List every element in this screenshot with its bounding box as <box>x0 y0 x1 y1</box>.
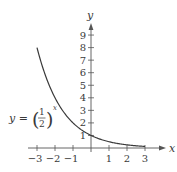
function-label: y = ( 1 2 ) x <box>8 104 57 130</box>
y-axis-label: y <box>86 9 94 22</box>
fraction-denominator: 2 <box>39 119 45 129</box>
x-tick-label: 3 <box>142 153 148 164</box>
x-axis-arrow-icon <box>159 146 166 151</box>
svg-text:y =: y = <box>8 112 28 125</box>
y-tick-label: 8 <box>80 42 86 53</box>
function-label-equals: = <box>15 112 28 125</box>
y-tick-label: 5 <box>80 80 86 91</box>
y-tick-label: 9 <box>80 30 86 41</box>
y-tick-label: 7 <box>80 55 86 66</box>
y-tick-label: 2 <box>80 117 86 128</box>
x-tick-label: 1 <box>106 153 112 164</box>
exponential-decay-graph: x y −3−2−1123 123456789 y = ( 1 2 ) x <box>0 0 177 172</box>
x-axis-label: x <box>169 142 176 155</box>
x-tick-label: −1 <box>64 153 79 164</box>
y-tick-label: 4 <box>80 92 86 103</box>
y-tick-label: 3 <box>80 105 86 116</box>
y-axis-arrow-icon <box>89 23 94 30</box>
x-tick-label: 2 <box>124 153 130 164</box>
plot-area: x y −3−2−1123 123456789 y = ( 1 2 ) x <box>0 0 177 172</box>
y-tick-label: 6 <box>80 67 86 78</box>
y-ticks: 123456789 <box>80 30 94 141</box>
x-tick-label: −2 <box>46 153 61 164</box>
x-tick-label: −3 <box>28 153 43 164</box>
exponent: x <box>53 104 57 112</box>
fraction-numerator: 1 <box>39 107 45 117</box>
